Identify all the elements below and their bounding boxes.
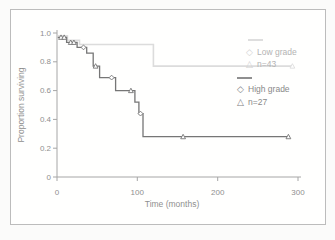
x-tick-label: 200 [211, 188, 225, 197]
legend-item-low-grade-n: △ n=43 [245, 59, 276, 69]
x-tick-label: 0 [55, 188, 60, 197]
legend-item-high-grade-n: △ n=27 [236, 97, 267, 107]
high-grade-line-sample [237, 77, 252, 79]
censor-mark-triangle-icon [181, 134, 186, 138]
censor-mark-triangle-icon [286, 134, 291, 138]
x-tick-label: 300 [291, 188, 305, 197]
y-tick-label: 0 [47, 173, 52, 182]
y-axis-title: Proportion surviving [16, 67, 26, 142]
y-tick-label: 0.2 [40, 144, 52, 153]
low-grade-n-label: n=43 [257, 59, 276, 69]
x-tick-label: 100 [131, 188, 145, 197]
diamond-icon: ◇ [245, 47, 254, 57]
y-tick-label: 0.4 [40, 115, 52, 124]
legend-item-high-grade: ◇ High grade [236, 84, 290, 94]
low-grade-label: Low grade [257, 47, 297, 57]
triangle-icon: △ [236, 97, 245, 107]
legend-item-low-grade: ◇ Low grade [245, 47, 297, 57]
diamond-icon: ◇ [236, 84, 245, 94]
censor-mark-triangle-icon [129, 88, 134, 92]
y-tick-label: 0.8 [40, 57, 52, 66]
y-tick-label: 1.0 [40, 29, 52, 38]
triangle-icon: △ [245, 59, 254, 69]
high-grade-label: High grade [248, 84, 290, 94]
high-grade-n-label: n=27 [248, 97, 267, 107]
censor-mark-diamond-icon [81, 45, 86, 50]
low-grade-line-sample [248, 39, 263, 41]
chart-legend: ◇ Low grade △ n=43 ◇ High grade △ n=27 [236, 34, 316, 114]
censor-mark-triangle-icon [93, 64, 98, 68]
y-tick-label: 0.6 [40, 86, 52, 95]
x-axis-title: Time (months) [145, 199, 200, 209]
censor-mark-diamond-icon [109, 75, 114, 80]
